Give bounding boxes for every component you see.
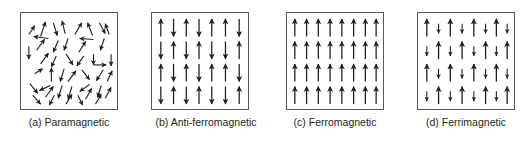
caption-paramagnetic: (a) Paramagnetic [0, 116, 144, 129]
panel-paramagnetic [20, 12, 118, 110]
panel-ferromagnetic [286, 12, 384, 110]
magnetic-ordering-figure: (a) Paramagnetic (b) Anti-ferromagnetic … [0, 0, 532, 144]
spin-arrows-ferromagnetic [287, 13, 383, 109]
spin-arrows-paramagnetic [21, 13, 117, 109]
caption-ferromagnetic: (c) Ferromagnetic [260, 116, 410, 129]
panel-ferrimagnetic [417, 12, 515, 110]
panel-anti-ferromagnetic [151, 12, 249, 110]
spin-arrows-ferrimagnetic [418, 13, 514, 109]
spin-arrows-anti-ferromagnetic [152, 13, 248, 109]
caption-ferrimagnetic: (d) Ferrimagnetic [391, 116, 532, 129]
caption-anti-ferromagnetic: (b) Anti-ferromagnetic [131, 116, 281, 129]
